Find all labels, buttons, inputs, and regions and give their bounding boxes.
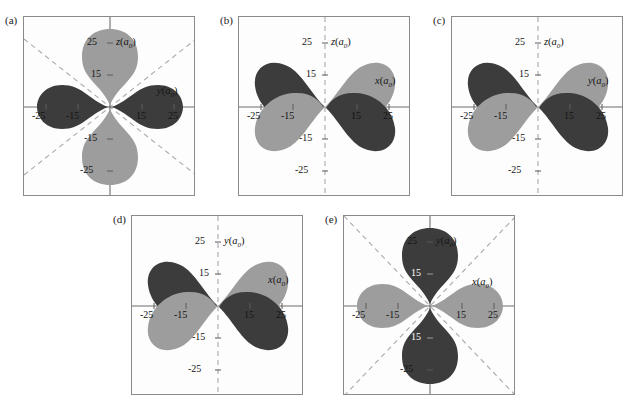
panel-c-tick-bottom: -25	[508, 164, 521, 175]
panel-e-tick-bottom: -25	[400, 363, 413, 374]
panel-c: (c) z(a0) y(a0)	[428, 0, 642, 205]
panel-d-tick-left-inner: -15	[174, 309, 187, 320]
panel-b-x-axis-label: x(a0)	[375, 75, 395, 89]
panel-d-plot	[132, 216, 303, 395]
panel-b-plot	[239, 17, 410, 196]
panel-b-plot-frame: z(a0) x(a0) 25 15 -15 -25 -25 -15 15 25	[238, 16, 410, 196]
panel-c-tick-left-inner: -15	[494, 110, 507, 121]
panel-a-tick-left-outer: -25	[32, 110, 45, 121]
panel-e-plot	[344, 216, 515, 395]
panel-e-x-axis-label: x(a0)	[472, 276, 492, 290]
panel-b-tick-left-inner: -15	[281, 110, 294, 121]
panel-c-x-axis-label: y(a0)	[588, 75, 608, 89]
panel-c-label: (c)	[433, 14, 445, 26]
lobe-dark-left	[37, 85, 108, 129]
panel-d-tick-upper: 15	[199, 267, 209, 278]
panel-b-tick-lower: -15	[299, 132, 312, 143]
panel-e-tick-upper: 15	[411, 267, 421, 278]
panel-a-tick-left-inner: -15	[66, 110, 79, 121]
panel-d-tick-bottom: -25	[188, 363, 201, 374]
panel-e-plot-frame: y(a0) x(a0) 25 15 15 -25 -25 -15 15 25	[343, 215, 515, 395]
panel-a-tick-right-inner: 15	[136, 110, 146, 121]
panel-a-label: (a)	[5, 14, 17, 26]
lobe-light-left	[357, 284, 428, 328]
panel-c-tick-left-outer: -25	[460, 110, 473, 121]
panel-c-plot-frame: z(a0) y(a0) 25 15 -15 -25 -25 -15 15 25	[451, 16, 623, 196]
panel-a-plot-frame: z(a0) y(a0) 25 15 -15 -25 -25 -15 15 25	[23, 16, 195, 196]
panel-b-y-axis-label: z(a0)	[331, 36, 351, 50]
panel-b-tick-left-outer: -25	[247, 110, 260, 121]
panel-a-plot	[24, 17, 195, 196]
panel-b-tick-bottom: -25	[295, 164, 308, 175]
panel-c-tick-lower: -15	[512, 132, 525, 143]
panel-e-tick-right-outer: 25	[488, 309, 498, 320]
panel-d-tick-right-outer: 25	[276, 309, 286, 320]
panel-e-tick-left-inner: -15	[386, 309, 399, 320]
panel-e-tick-lower: 15	[411, 331, 421, 342]
panel-e-label: (e)	[325, 213, 337, 225]
panel-c-y-axis-label: z(a0)	[544, 36, 564, 50]
panel-d-tick-top: 25	[195, 235, 205, 246]
panel-a: (a)	[0, 0, 215, 205]
panel-e-tick-top: 25	[407, 235, 417, 246]
panel-d-tick-lower: -15	[192, 331, 205, 342]
panel-e-y-axis-label: y(a0)	[436, 235, 456, 249]
panel-c-tick-right-outer: 25	[596, 110, 606, 121]
panel-c-tick-top: 25	[515, 36, 525, 47]
panel-e-tick-right-inner: 15	[456, 309, 466, 320]
panel-e: (e)	[320, 200, 535, 402]
panel-a-tick-upper: 15	[91, 68, 101, 79]
panel-b-tick-top: 25	[302, 36, 312, 47]
panel-c-tick-upper: 15	[519, 68, 529, 79]
panel-b-label: (b)	[220, 14, 233, 26]
panel-d-label: (d)	[113, 213, 126, 225]
panel-d-tick-left-outer: -25	[140, 309, 153, 320]
panel-c-tick-right-inner: 15	[564, 110, 574, 121]
panel-b-tick-right-outer: 25	[383, 110, 393, 121]
lobe-light-right	[432, 284, 503, 328]
orbital-contour-figure: (a)	[0, 0, 642, 402]
panel-e-tick-left-outer: -25	[352, 309, 365, 320]
panel-b-tick-right-inner: 15	[351, 110, 361, 121]
panel-d-y-axis-label: y(a0)	[224, 235, 244, 249]
panel-d: (d) y(a0) x(a0)	[108, 200, 323, 402]
panel-d-x-axis-label: x(a0)	[268, 274, 288, 288]
panel-a-y-axis-label: z(a0)	[116, 36, 136, 50]
panel-b: (b) z(a0)	[215, 0, 430, 205]
panel-d-tick-right-inner: 15	[244, 309, 254, 320]
panel-a-tick-top: 25	[87, 36, 97, 47]
panel-d-plot-frame: y(a0) x(a0) 25 15 -15 -25 -25 -15 15 25	[131, 215, 303, 395]
panel-c-plot	[452, 17, 623, 196]
panel-a-tick-lower: -15	[84, 132, 97, 143]
panel-a-x-axis-label: y(a0)	[157, 85, 177, 99]
panel-a-tick-bottom: -25	[80, 164, 93, 175]
panel-a-tick-right-outer: 25	[168, 110, 178, 121]
panel-b-tick-upper: 15	[306, 68, 316, 79]
